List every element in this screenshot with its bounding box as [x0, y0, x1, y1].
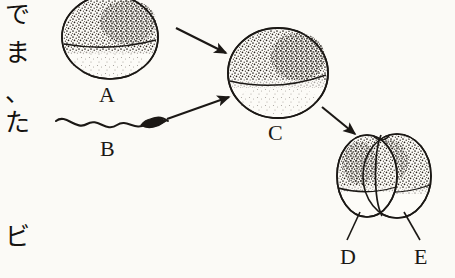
- vertical-text-char-3: 、: [2, 80, 32, 105]
- cell-a-group: [62, 0, 158, 79]
- vertical-text-char-5: ビ: [2, 224, 32, 249]
- cell-a-lower-speckle: [72, 51, 148, 77]
- arrow-c-to-de: [322, 107, 355, 134]
- label-e: E: [414, 246, 428, 268]
- label-d: D: [340, 246, 356, 268]
- sperm-b-group: [56, 118, 168, 128]
- label-b: B: [100, 138, 115, 160]
- cell-c-group: [228, 28, 328, 118]
- cell-a-pigment-dense: [100, 0, 156, 44]
- arrow-b-to-c: [167, 97, 229, 119]
- fertilization-diagram: [0, 0, 455, 278]
- two-cell-stage-group: [337, 134, 431, 218]
- sperm-b-tail: [56, 119, 146, 127]
- cell-c-pigment-dense: [271, 33, 325, 81]
- arrow-a-to-c: [176, 28, 226, 53]
- figure-page: で ま 、 た ビ A B C D E: [0, 0, 455, 278]
- leader-line-e: [404, 212, 420, 240]
- vertical-text-char-1: で: [2, 2, 32, 27]
- vertical-text-char-2: ま: [2, 40, 32, 65]
- vertical-text-char-4: た: [2, 110, 32, 135]
- vertical-text-column: で ま 、 た ビ: [2, 0, 34, 278]
- cell-d-pigment-dense: [342, 142, 378, 184]
- leader-line-d: [347, 212, 360, 240]
- label-c: C: [268, 122, 283, 144]
- sperm-b-head: [141, 118, 166, 127]
- label-a: A: [99, 84, 115, 106]
